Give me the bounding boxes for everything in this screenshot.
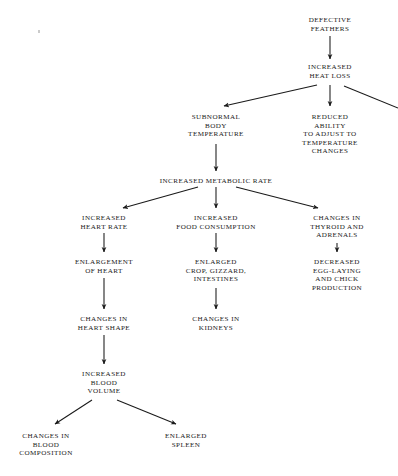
node-decreased_egg: DECREASED EGG-LAYING AND CHICK PRODUCTIO… [312, 258, 362, 292]
node-changes_thyroid: CHANGES IN THYROID AND ADRENALS [310, 214, 364, 240]
edge-increased_heat_loss-to-offscreen_right [344, 86, 398, 108]
node-changes_kidneys: CHANGES IN KIDNEYS [192, 315, 239, 332]
node-increased_blood_vol: INCREASED BLOOD VOLUME [82, 370, 126, 396]
node-increased_food: INCREASED FOOD CONSUMPTION [176, 214, 256, 231]
edge-increased_metabolic-to-changes_thyroid [236, 187, 318, 208]
node-increased_heart_rate: INCREASED HEART RATE [80, 214, 127, 231]
edge-increased_blood_vol-to-enlarged_spleen [117, 400, 176, 424]
node-defective_feathers: DEFECTIVE FEATHERS [309, 16, 352, 33]
node-enlarged_spleen: ENLARGED SPLEEN [165, 432, 207, 449]
node-increased_metabolic: INCREASED METABOLIC RATE [160, 177, 273, 186]
edge-increased_metabolic-to-increased_heart_rate [123, 187, 198, 208]
node-changes_blood_comp: CHANGES IN BLOOD COMPOSITION [19, 432, 72, 458]
node-enlargement_heart: ENLARGEMENT OF HEART [75, 258, 133, 275]
edge-increased_heat_loss-to-subnormal_body_temp [224, 85, 317, 106]
node-changes_heart_shape: CHANGES IN HEART SHAPE [78, 315, 130, 332]
node-reduced_ability: REDUCED ABILITY TO ADJUST TO TEMPERATURE… [296, 113, 364, 156]
node-increased_heat_loss: INCREASED HEAT LOSS [308, 63, 352, 80]
node-subnormal_body_temp: SUBNORMAL BODY TEMPERATURE [188, 113, 244, 139]
node-enlarged_crop: ENLARGED CROP, GIZZARD, INTESTINES [186, 258, 247, 284]
flowchart-diagram: DEFECTIVE FEATHERSINCREASED HEAT LOSSSUB… [0, 0, 398, 476]
edge-increased_blood_vol-to-changes_blood_comp [55, 400, 92, 424]
scan-speck [38, 30, 40, 33]
